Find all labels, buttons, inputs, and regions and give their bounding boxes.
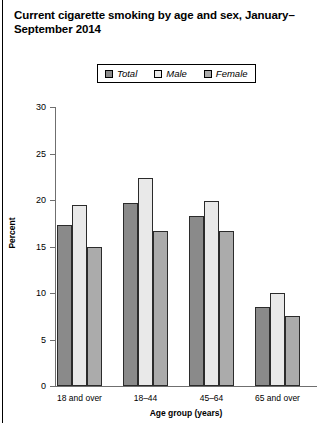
bar (153, 231, 168, 386)
y-tick-label: 15 (18, 243, 46, 252)
y-tick-label: 10 (18, 289, 46, 298)
x-tick-label: 65 and over (244, 393, 312, 403)
y-tick-label-wrap: 5 (14, 336, 46, 345)
bar (204, 201, 219, 386)
y-tick (50, 200, 56, 201)
y-tick-label-wrap: 30 (14, 103, 46, 112)
bar (219, 231, 234, 386)
y-tick-label: 25 (18, 150, 46, 159)
bar (285, 316, 300, 386)
y-tick-label: 0 (18, 382, 46, 391)
y-tick-label: 20 (18, 196, 46, 205)
bar (255, 307, 270, 386)
chart-page: Current cigarette smoking by age and sex… (0, 0, 328, 423)
y-tick (50, 386, 56, 387)
y-tick (50, 154, 56, 155)
x-tick-label: 18–44 (112, 393, 180, 403)
bar (72, 205, 87, 386)
y-tick-label: 5 (18, 336, 46, 345)
y-tick (50, 247, 56, 248)
y-tick-label-wrap: 0 (14, 382, 46, 391)
y-tick-label: 30 (18, 103, 46, 112)
y-tick (50, 293, 56, 294)
y-tick-label-wrap: 10 (14, 289, 46, 298)
bar (189, 216, 204, 386)
bar (123, 203, 138, 386)
y-tick-label-wrap: 20 (14, 196, 46, 205)
bar (138, 178, 153, 386)
bar (270, 293, 285, 386)
x-axis-line (55, 386, 317, 387)
bar (87, 247, 102, 387)
y-tick (50, 340, 56, 341)
x-tick-label: 45–64 (178, 393, 246, 403)
y-tick (50, 107, 56, 108)
plot-area: Percent 051015202530 18 and over18–4445–… (0, 0, 328, 423)
y-tick-label-wrap: 15 (14, 243, 46, 252)
x-tick-label: 18 and over (46, 393, 114, 403)
x-axis-title: Age group (years) (55, 408, 317, 418)
bar (57, 225, 72, 386)
y-tick-label-wrap: 25 (14, 150, 46, 159)
